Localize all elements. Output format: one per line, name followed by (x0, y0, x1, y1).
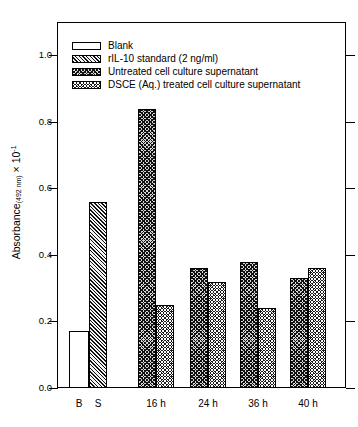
bar (308, 268, 326, 388)
y-axis-tick-right (346, 122, 355, 123)
bar (138, 109, 156, 388)
legend-item: Blank (72, 40, 300, 52)
legend-swatch (72, 68, 101, 76)
bar (156, 305, 174, 388)
bar (89, 202, 107, 388)
bar (208, 282, 226, 388)
y-axis-tick-right (346, 321, 355, 322)
y-axis-label: 0.0 (12, 383, 52, 393)
y-axis-label: 0.8 (12, 117, 52, 127)
y-axis-title: Absorbance(492 nm) × 10-1 (10, 107, 23, 297)
legend-item: Untreated cell culture supernatant (72, 66, 300, 78)
y-axis-tick-right (346, 388, 355, 389)
bar-chart: Absorbance(492 nm) × 10-1 0.00.20.40.60.… (0, 0, 358, 427)
y-axis-title-times: × 10 (10, 152, 22, 176)
x-axis-label: 16 h (126, 398, 186, 409)
legend-label: DSCE (Aq.) treated cell culture supernat… (108, 80, 300, 90)
legend-label: Untreated cell culture supernatant (108, 67, 258, 77)
legend-swatch (72, 55, 101, 63)
bar (240, 262, 258, 388)
bar (69, 331, 89, 388)
legend-item: rIL-10 standard (2 ng/ml) (72, 53, 300, 65)
y-axis-tick-right (346, 55, 355, 56)
legend-item: DSCE (Aq.) treated cell culture supernat… (72, 79, 300, 91)
legend-swatch (72, 42, 101, 50)
chart-legend: BlankrIL-10 standard (2 ng/ml)Untreated … (72, 40, 300, 92)
x-axis-label: 40 h (278, 398, 338, 409)
y-axis-tick-right (346, 188, 355, 189)
y-axis-title-exponent: -1 (10, 145, 17, 151)
legend-swatch (72, 81, 101, 89)
x-axis-label: S (68, 398, 128, 409)
y-axis-tick-right (346, 255, 355, 256)
bar (258, 308, 276, 388)
bar (290, 278, 308, 388)
legend-label: Blank (108, 41, 133, 51)
y-axis-label: 0.2 (12, 316, 52, 326)
y-axis-label: 1.0 (12, 50, 52, 60)
y-axis-label: 0.4 (12, 250, 52, 260)
y-axis-label: 0.6 (12, 183, 52, 193)
bar (190, 268, 208, 388)
legend-label: rIL-10 standard (2 ng/ml) (108, 54, 218, 64)
